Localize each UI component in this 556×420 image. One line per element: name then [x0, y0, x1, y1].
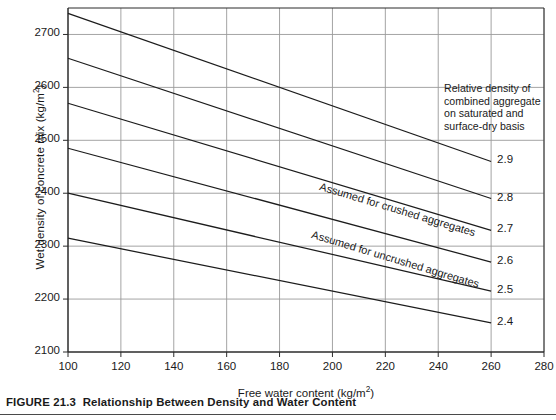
figure-container: Wet density of concrete mix (kg/m2) Free… [0, 0, 556, 420]
grid-lines-horizontal [68, 34, 544, 299]
series-end-label-2.6: 2.6 [497, 254, 513, 266]
series-end-label-2.8: 2.8 [497, 191, 513, 203]
y-tick-label: 2400 [16, 185, 60, 197]
x-tick-label: 160 [202, 360, 252, 372]
x-tick-label: 140 [149, 360, 199, 372]
x-tick-label: 240 [413, 360, 463, 372]
x-tick-label: 120 [96, 360, 146, 372]
y-tick-label: 2600 [16, 79, 60, 91]
y-tick-label: 2100 [16, 344, 60, 356]
annotation-line: Relative density of [444, 82, 556, 95]
chart-plot-area [0, 0, 556, 420]
x-tick-label: 280 [519, 360, 556, 372]
series-end-label-2.4: 2.4 [497, 315, 513, 327]
y-tick-label: 2500 [16, 132, 60, 144]
figure-caption-title: Relationship Between Density and Water C… [83, 396, 357, 408]
x-tick-label: 180 [255, 360, 305, 372]
annotation-line: surface-dry basis [444, 120, 556, 133]
series-end-label-2.9: 2.9 [497, 153, 513, 165]
x-tick-label: 260 [466, 360, 516, 372]
y-tick-label: 2700 [16, 26, 60, 38]
x-tick-label: 220 [360, 360, 410, 372]
x-tick-label: 100 [43, 360, 93, 372]
relative-density-annotation: Relative density ofcombined aggregateon … [444, 82, 556, 132]
caption-divider [0, 414, 556, 415]
series-end-label-2.5: 2.5 [497, 283, 513, 295]
annotation-line: on saturated and [444, 107, 556, 120]
series-end-label-2.7: 2.7 [497, 222, 513, 234]
x-tick-label: 200 [307, 360, 357, 372]
figure-caption: FIGURE 21.3 Relationship Between Density… [6, 396, 356, 408]
y-tick-label: 2200 [16, 291, 60, 303]
axis-lines [68, 8, 544, 352]
y-tick-label: 2300 [16, 238, 60, 250]
annotation-line: combined aggregate [444, 95, 556, 108]
figure-caption-number: FIGURE 21.3 [6, 396, 76, 408]
